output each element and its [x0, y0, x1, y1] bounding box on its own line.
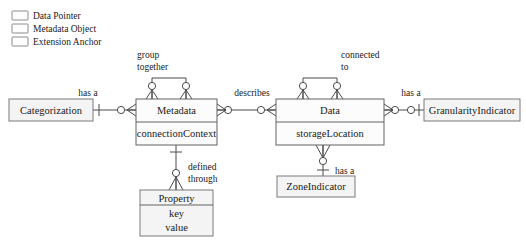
- entity-name-data: Data: [320, 105, 340, 116]
- cardinality-crowsfoot-data-left: [267, 104, 276, 116]
- rel-label-defined-through-line1: defined: [188, 162, 217, 172]
- legend-item-data-pointer: Data Pointer: [12, 11, 82, 21]
- cardinality-ring-data-self-right: [333, 82, 340, 89]
- entity-data[interactable]: Data storageLocation: [276, 99, 384, 145]
- cardinality-crowsfoot-property: [169, 177, 183, 190]
- entity-granularity-indicator[interactable]: GranularityIndicator: [424, 99, 520, 121]
- cardinality-ring-metadata-self-left: [148, 82, 155, 89]
- relationship-metadata-property: defined through: [169, 145, 218, 190]
- entity-zone-indicator[interactable]: ZoneIndicator: [277, 176, 355, 197]
- relationship-data-granularity: has a: [384, 88, 424, 116]
- cardinality-crowsfoot-metadata-self-right: [180, 90, 192, 99]
- cardinality-crowsfoot-metadata-left: [127, 104, 136, 116]
- entity-categorization[interactable]: Categorization: [9, 99, 93, 121]
- cardinality-ring-property: [172, 169, 179, 176]
- legend-label-extension-anchor: Extension Anchor: [33, 37, 102, 47]
- relationship-data-zone: has a: [316, 145, 355, 176]
- entity-attribute-property-key: key: [169, 208, 185, 219]
- entity-attribute-metadata-connectioncontext: connectionContext: [137, 128, 216, 139]
- cardinality-ring-zone: [319, 157, 326, 164]
- rel-label-has-a-granularity: has a: [401, 88, 421, 98]
- entity-property[interactable]: Property key value: [140, 190, 213, 236]
- entity-name-property: Property: [158, 193, 195, 204]
- entity-name-zone-indicator: ZoneIndicator: [286, 181, 346, 192]
- rel-line-data-self: [303, 78, 337, 99]
- rel-label-group-together-line2: together: [137, 62, 169, 72]
- entity-name-categorization: Categorization: [20, 105, 83, 116]
- legend: Data Pointer Metadata Object Extension A…: [12, 11, 102, 47]
- entity-attribute-data-storagelocation: storageLocation: [296, 128, 364, 139]
- cardinality-ring-data-left: [257, 106, 264, 113]
- relationship-data-self-loop: connected to: [297, 50, 380, 99]
- relationship-metadata-data: describes: [217, 88, 276, 116]
- entity-name-granularity-indicator: GranularityIndicator: [429, 105, 516, 116]
- cardinality-ring-data-self-left: [299, 82, 306, 89]
- legend-label-data-pointer: Data Pointer: [33, 11, 82, 21]
- cardinality-crowsfoot-metadata-right: [217, 104, 226, 116]
- cardinality-crowsfoot-metadata-self-left: [146, 90, 158, 99]
- rel-line-metadata-self: [152, 78, 186, 99]
- legend-swatch-extension-anchor: [12, 37, 28, 46]
- rel-label-connected-to-line2: to: [341, 62, 349, 72]
- rel-label-group-together-line1: group: [137, 50, 159, 60]
- legend-swatch-data-pointer: [12, 11, 28, 20]
- cardinality-crowsfoot-data-self-left: [297, 90, 309, 99]
- entity-metadata[interactable]: Metadata connectionContext: [136, 99, 217, 145]
- relationship-metadata-self-loop: group together: [137, 50, 192, 99]
- cardinality-crowsfoot-data-self-right: [331, 90, 343, 99]
- rel-label-has-a-zone: has a: [335, 166, 355, 176]
- er-diagram: Data Pointer Metadata Object Extension A…: [0, 0, 526, 251]
- rel-label-describes: describes: [234, 88, 270, 98]
- legend-item-extension-anchor: Extension Anchor: [12, 37, 102, 47]
- rel-label-defined-through-line2: through: [188, 174, 218, 184]
- rel-label-has-a-categorization: has a: [78, 88, 98, 98]
- cardinality-crowsfoot-data-right: [384, 104, 393, 116]
- legend-item-metadata-object: Metadata Object: [12, 24, 96, 34]
- cardinality-ring-metadata-left: [117, 106, 124, 113]
- entity-attribute-property-value: value: [165, 222, 188, 233]
- cardinality-ring-metadata-self-right: [182, 82, 189, 89]
- cardinality-crowsfoot-data-bottom: [316, 145, 330, 158]
- legend-swatch-metadata-object: [12, 24, 28, 33]
- legend-label-metadata-object: Metadata Object: [33, 24, 96, 34]
- rel-label-connected-to-line1: connected: [341, 50, 380, 60]
- cardinality-ring-granularity: [407, 106, 414, 113]
- entity-name-metadata: Metadata: [157, 105, 196, 116]
